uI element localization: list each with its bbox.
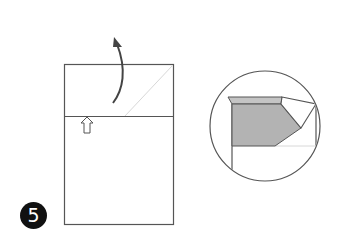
main-view	[65, 37, 174, 225]
paper-sheet	[65, 65, 174, 225]
origami-diagram	[0, 0, 355, 241]
folded-flap-top	[228, 97, 282, 104]
detail-view	[210, 71, 320, 190]
step-number-badge: 5	[20, 202, 47, 229]
arrow-head-icon	[113, 37, 122, 47]
